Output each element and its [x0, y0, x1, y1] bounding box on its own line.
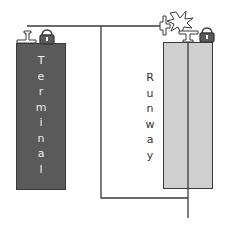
airplane-icon — [17, 31, 36, 43]
airplane-icon — [160, 16, 170, 35]
lock-icon — [40, 30, 54, 44]
lock-icon — [200, 28, 214, 42]
airport-diagram: T e r m i n a l R u n w a y — [0, 0, 227, 228]
airplane-icon — [179, 31, 198, 42]
connector-lines — [0, 0, 227, 228]
